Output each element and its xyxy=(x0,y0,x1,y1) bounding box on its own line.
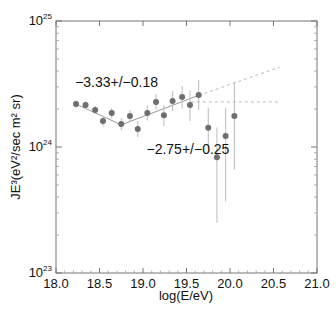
data-point xyxy=(179,94,185,100)
data-point xyxy=(100,118,106,124)
data-point xyxy=(118,121,124,127)
y-tick-label: 1024 xyxy=(29,138,53,154)
data-point xyxy=(170,98,176,104)
x-tick-label: 21.0 xyxy=(304,276,329,291)
x-axis-label: log(E/eV) xyxy=(159,288,213,303)
data-point xyxy=(127,113,133,119)
data-point xyxy=(205,125,211,131)
annotations: −3.33+/−0.18−2.75+/−0.25 xyxy=(75,74,229,157)
data-point xyxy=(135,126,141,132)
data-point xyxy=(83,102,89,108)
data-point xyxy=(187,102,193,108)
data-point xyxy=(109,110,115,116)
data-point xyxy=(144,110,150,116)
x-tick-label: 20.0 xyxy=(217,276,242,291)
fit-below-ankle-line xyxy=(76,104,121,125)
x-tick-label: 20.5 xyxy=(261,276,286,291)
x-tick-label: 18.0 xyxy=(43,276,68,291)
extrapolation-line xyxy=(199,67,280,95)
data-point xyxy=(92,107,98,113)
data-point xyxy=(196,92,202,98)
data-point xyxy=(73,101,79,107)
x-tick-label: 19.0 xyxy=(130,276,155,291)
data-point xyxy=(161,112,167,118)
slope-annotation: −3.33+/−0.18 xyxy=(75,74,158,90)
data-point xyxy=(223,133,229,139)
spectrum-chart: 18.018.519.019.520.020.521.0102510241023… xyxy=(0,0,336,313)
data-point xyxy=(231,113,237,119)
y-axis-label: JE³(eV²/sec m² sr) xyxy=(8,94,23,199)
data-point xyxy=(153,99,159,105)
fit-above-ankle-line xyxy=(121,95,198,124)
x-tick-label: 18.5 xyxy=(87,276,112,291)
slope-annotation: −2.75+/−0.25 xyxy=(146,141,229,157)
chart-svg: 18.018.519.019.520.020.521.0102510241023… xyxy=(0,0,336,313)
y-tick-label: 1025 xyxy=(29,12,53,28)
